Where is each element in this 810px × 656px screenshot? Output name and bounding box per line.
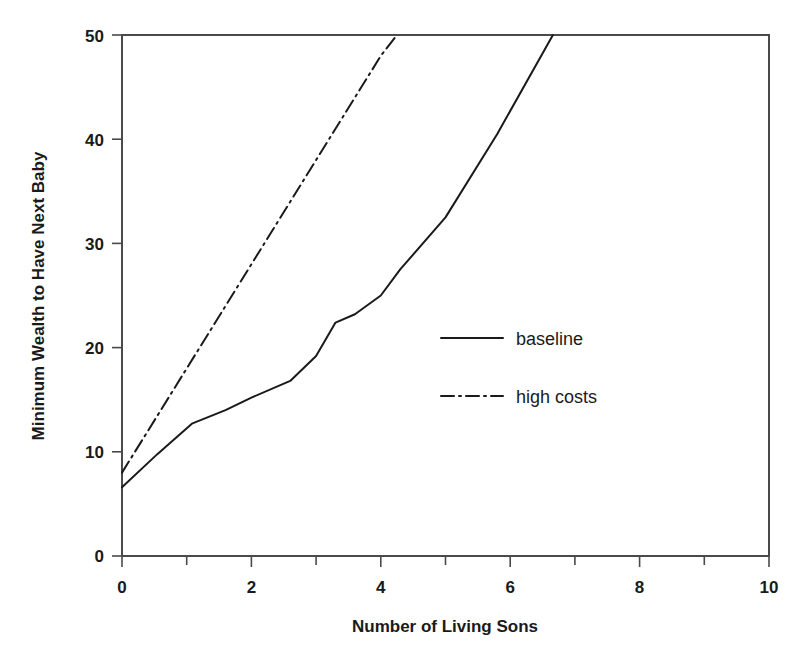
x-tick-label-4: 4 [376,578,386,597]
line-chart: 0 10 20 30 40 50 0 2 4 6 8 [0,0,810,656]
series-line-high-costs [122,35,397,473]
plot-frame [122,35,769,556]
y-tick-label-20: 20 [85,339,104,358]
x-tick-label-0: 0 [117,578,126,597]
series-line-baseline [122,35,553,487]
series-group [122,35,553,487]
x-tick-label-10: 10 [760,578,779,597]
chart-legend: baseline high costs [441,329,597,407]
chart-figure: 0 10 20 30 40 50 0 2 4 6 8 [0,0,810,656]
x-tick-label-8: 8 [635,578,644,597]
y-tick-label-30: 30 [85,235,104,254]
y-tick-label-10: 10 [85,443,104,462]
legend-entry-baseline: baseline [441,329,583,349]
x-axis-tick-labels: 0 2 4 6 8 10 [117,578,778,597]
y-axis-tick-labels: 0 10 20 30 40 50 [85,27,104,566]
legend-entry-high-costs: high costs [441,387,597,407]
y-tick-label-0: 0 [95,547,104,566]
y-tick-label-50: 50 [85,27,104,46]
y-axis-ticks [112,35,122,556]
x-tick-label-6: 6 [505,578,514,597]
legend-label-high-costs: high costs [516,387,597,407]
y-tick-label-40: 40 [85,131,104,150]
x-tick-label-2: 2 [247,578,256,597]
y-axis-title: Minimum Wealth to Have Next Baby [29,151,48,440]
x-axis-ticks [122,556,769,567]
x-axis-title: Number of Living Sons [352,617,538,636]
legend-label-baseline: baseline [516,329,583,349]
